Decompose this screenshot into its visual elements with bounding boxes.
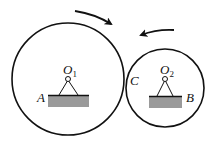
large-wheel-rotation-arrow xyxy=(75,11,111,24)
label-o2-main: O xyxy=(160,62,169,77)
pivot-support-o2 xyxy=(149,77,182,109)
label-o1: O1 xyxy=(63,63,77,79)
diagram-canvas: O1 O2 A B C xyxy=(0,0,211,144)
label-c: C xyxy=(130,74,139,87)
label-o1-sub: 1 xyxy=(72,69,77,79)
small-wheel-rotation-arrow xyxy=(141,30,174,35)
small-wheel xyxy=(126,49,204,127)
pivot-support-o1 xyxy=(48,77,89,108)
label-a: A xyxy=(37,91,45,104)
label-b: B xyxy=(186,91,194,104)
label-o2-sub: 2 xyxy=(169,69,174,79)
label-o1-main: O xyxy=(63,62,72,77)
diagram-svg xyxy=(0,0,211,144)
label-o2: O2 xyxy=(160,63,174,79)
